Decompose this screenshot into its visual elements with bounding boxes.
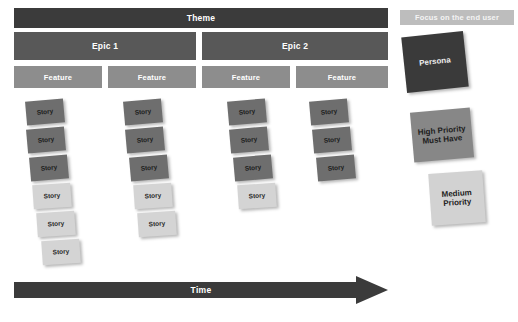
story-card[interactable]: Story: [229, 126, 269, 153]
story-card[interactable]: Story: [227, 98, 267, 125]
epic-bar-2[interactable]: Epic 2: [202, 32, 388, 60]
story-card[interactable]: Story: [316, 154, 356, 181]
high-priority-line-2: Must Have: [422, 133, 463, 146]
story-card-label: Story: [248, 192, 265, 201]
story-card[interactable]: Story: [137, 211, 177, 238]
story-card-label: Story: [320, 108, 337, 117]
epic-bar-1[interactable]: Epic 1: [14, 32, 196, 60]
story-card-label: Story: [244, 164, 261, 173]
focus-banner-label: Focus on the end user: [415, 13, 499, 22]
feature-label-3: Feature: [232, 73, 261, 82]
story-card-label: Story: [43, 192, 60, 201]
story-card[interactable]: Story: [125, 126, 165, 153]
story-card-label: Story: [238, 108, 255, 117]
story-card-label: Story: [134, 108, 151, 117]
story-card-label: Story: [47, 220, 64, 229]
persona-card-label: Persona: [419, 56, 451, 68]
story-card[interactable]: Story: [32, 183, 72, 210]
medium-priority-card[interactable]: Medium Priority: [428, 170, 485, 226]
story-card-label: Story: [136, 136, 153, 145]
focus-banner[interactable]: Focus on the end user: [400, 10, 514, 25]
story-card[interactable]: Story: [312, 126, 352, 153]
story-card[interactable]: Story: [25, 98, 65, 125]
story-card-label: Story: [144, 192, 161, 201]
story-card-label: Story: [40, 164, 57, 173]
feature-bar-4[interactable]: Feature: [296, 66, 388, 88]
story-card-label: Story: [37, 136, 54, 145]
theme-label: Theme: [187, 13, 215, 23]
story-map-canvas: Theme Epic 1 Epic 2 Feature Feature Feat…: [0, 0, 518, 322]
story-card[interactable]: Story: [233, 154, 273, 181]
story-card-label: Story: [36, 108, 53, 117]
story-card-label: Story: [52, 248, 69, 257]
feature-bar-3[interactable]: Feature: [202, 66, 290, 88]
story-card[interactable]: Story: [26, 126, 66, 153]
feature-label-4: Feature: [328, 73, 357, 82]
feature-bar-1[interactable]: Feature: [14, 66, 102, 88]
story-card[interactable]: Story: [237, 183, 277, 210]
story-card[interactable]: Story: [41, 239, 81, 266]
medium-priority-line-2: Priority: [443, 197, 472, 208]
story-card-label: Story: [148, 220, 165, 229]
story-card-label: Story: [323, 136, 340, 145]
theme-bar[interactable]: Theme: [14, 8, 388, 28]
feature-label-1: Feature: [44, 73, 73, 82]
epic-label-2: Epic 2: [282, 41, 308, 51]
feature-label-2: Feature: [138, 73, 167, 82]
story-card[interactable]: Story: [129, 154, 169, 181]
story-card[interactable]: Story: [133, 183, 173, 210]
epic-label-1: Epic 1: [92, 41, 118, 51]
story-card-label: Story: [327, 164, 344, 173]
story-card-label: Story: [240, 136, 257, 145]
story-card[interactable]: Story: [309, 98, 349, 125]
story-card[interactable]: Story: [29, 154, 69, 181]
story-card-label: Story: [140, 164, 157, 173]
persona-card[interactable]: Persona: [401, 31, 469, 93]
feature-bar-2[interactable]: Feature: [108, 66, 196, 88]
high-priority-card[interactable]: High Priority Must Have: [410, 107, 474, 162]
story-card[interactable]: Story: [36, 211, 76, 238]
story-card[interactable]: Story: [123, 98, 163, 125]
time-arrow: [14, 276, 388, 304]
